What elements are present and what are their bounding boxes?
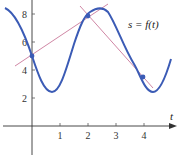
chart: 1 2 3 4 t 2 4 6 8 s = f(t) xyxy=(0,0,178,159)
x-axis-arrow-icon xyxy=(169,123,177,129)
secant-line-1 xyxy=(15,4,108,66)
point-t4 xyxy=(141,75,146,80)
y-tick-label: 8 xyxy=(22,9,27,20)
x-tick-label: 4 xyxy=(142,130,147,141)
x-tick-label: 1 xyxy=(58,130,63,141)
point-t0 xyxy=(30,54,35,59)
x-axis-label: t xyxy=(170,110,174,122)
x-tick-label: 2 xyxy=(86,130,91,141)
point-t2 xyxy=(86,14,91,19)
x-tick-label: 3 xyxy=(114,130,119,141)
y-tick-label: 2 xyxy=(22,93,27,104)
curve-label: s = f(t) xyxy=(128,18,159,31)
y-tick-label: 4 xyxy=(22,65,27,76)
